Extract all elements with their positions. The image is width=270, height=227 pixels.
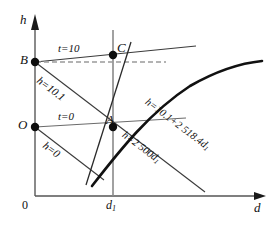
- point-label-C: C: [117, 40, 126, 56]
- figure-svg: [0, 0, 270, 227]
- d-axis-label: d: [254, 200, 261, 216]
- d-axis-arrow: [254, 192, 266, 200]
- d1-tick-subscript: 1: [112, 204, 116, 213]
- point-O: [31, 123, 39, 131]
- h-axis-arrow: [31, 14, 39, 30]
- point-label-B: B: [20, 52, 28, 68]
- point-B: [31, 58, 39, 66]
- origin-tick-label: 0: [22, 198, 28, 213]
- h-0-line: [35, 127, 104, 180]
- point-C: [109, 51, 117, 59]
- t10-label: t=10: [58, 42, 79, 54]
- t0-label: t=0: [58, 110, 74, 122]
- h-axis-label: h: [20, 12, 27, 28]
- d1-tick-label: d1: [106, 198, 116, 213]
- point-label-A: A: [106, 112, 114, 128]
- figure-canvas: h d 0 d1 B C O A t=10 t=0 h=10.1 h=0 h=2…: [0, 0, 270, 227]
- point-label-O: O: [18, 117, 27, 133]
